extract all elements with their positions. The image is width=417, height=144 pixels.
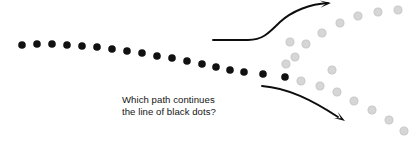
data-dot — [374, 8, 382, 16]
data-dot — [354, 12, 362, 20]
data-dot — [123, 47, 131, 55]
data-dot — [400, 127, 408, 135]
data-dot — [291, 53, 299, 61]
data-dot — [316, 82, 324, 90]
data-dot — [394, 6, 402, 14]
data-dot — [297, 77, 305, 85]
data-dot — [259, 70, 267, 78]
data-dot — [48, 40, 56, 48]
question-caption: Which path continues the line of black d… — [122, 94, 302, 117]
data-dot — [183, 57, 191, 65]
data-dot — [78, 42, 86, 50]
data-dot — [318, 29, 326, 37]
black-dots-stem — [18, 40, 289, 81]
data-dot — [336, 19, 344, 27]
gray-dots-upper-branch — [286, 6, 402, 74]
data-dot — [138, 49, 146, 57]
data-dot — [350, 97, 358, 105]
data-dot — [328, 66, 336, 74]
data-dot — [93, 43, 101, 51]
data-dot — [240, 68, 248, 76]
data-dot — [18, 41, 26, 49]
lower-arrow-head — [334, 112, 345, 121]
figure-canvas — [0, 0, 417, 144]
data-dot — [286, 38, 294, 46]
data-dot — [108, 45, 116, 53]
dot-path-illustration: Which path continues the line of black d… — [0, 0, 417, 144]
data-dot — [368, 106, 376, 114]
data-dot — [302, 40, 310, 48]
data-dot — [385, 116, 393, 124]
data-dot — [212, 63, 220, 71]
data-dot — [33, 40, 41, 48]
data-dot — [63, 41, 71, 49]
data-dot — [226, 66, 234, 74]
upper-arrow — [213, 3, 328, 40]
data-dot — [153, 52, 161, 60]
data-dot — [281, 73, 289, 81]
data-dot — [198, 60, 206, 68]
data-dot — [168, 54, 176, 62]
data-dot — [333, 88, 341, 96]
data-dot — [282, 60, 290, 68]
